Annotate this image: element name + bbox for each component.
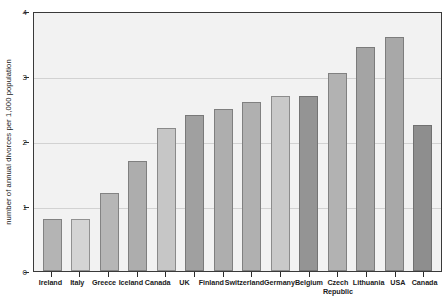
x-tick-slot	[94, 272, 123, 277]
bar-slot	[124, 13, 153, 271]
x-tick-mark	[251, 272, 252, 277]
x-axis-tick-label: Finland	[198, 279, 225, 303]
x-tick-slot	[37, 272, 66, 277]
x-tick-mark	[366, 272, 367, 277]
y-tick-mark	[24, 207, 29, 208]
x-axis-tick-label: Lithuania	[353, 279, 385, 303]
y-tick-mark	[24, 77, 29, 78]
x-tick-slot	[180, 272, 209, 277]
x-tick-slot	[323, 272, 352, 277]
x-tick-mark	[223, 272, 224, 277]
plot-area	[33, 12, 442, 272]
bar[interactable]	[185, 115, 204, 271]
x-tick-mark	[337, 272, 338, 277]
x-axis-ticks	[33, 272, 442, 277]
bar-slot	[238, 13, 267, 271]
x-tick-mark	[280, 272, 281, 277]
bar[interactable]	[299, 96, 318, 272]
bar[interactable]	[100, 193, 119, 271]
bar-slot	[295, 13, 324, 271]
x-tick-slot	[123, 272, 152, 277]
bar-slot	[409, 13, 438, 271]
bar-slot	[38, 13, 67, 271]
x-tick-slot	[409, 272, 438, 277]
x-tick-slot	[352, 272, 381, 277]
bar-slot	[352, 13, 381, 271]
bar[interactable]	[128, 161, 147, 272]
x-axis-tick-label: Greece	[91, 279, 118, 303]
x-tick-slot	[209, 272, 238, 277]
bar[interactable]	[385, 37, 404, 271]
x-tick-mark	[51, 272, 52, 277]
x-tick-mark	[165, 272, 166, 277]
x-tick-slot	[237, 272, 266, 277]
x-axis-tick-label: UK	[171, 279, 198, 303]
x-tick-slot	[152, 272, 181, 277]
x-axis-tick-label: Belgium	[295, 279, 323, 303]
bar[interactable]	[43, 219, 62, 271]
bar-slot	[380, 13, 409, 271]
x-axis-tick-label: Iceland	[117, 279, 144, 303]
x-tick-mark	[108, 272, 109, 277]
x-tick-mark	[194, 272, 195, 277]
x-axis-tick-label: Ireland	[37, 279, 64, 303]
x-tick-mark	[79, 272, 80, 277]
x-tick-slot	[381, 272, 410, 277]
bar[interactable]	[356, 47, 375, 271]
x-axis-tick-label: Germany	[264, 279, 295, 303]
bar-series	[34, 13, 441, 271]
x-axis-tick-label: Switzerland	[225, 279, 264, 303]
x-tick-mark	[395, 272, 396, 277]
bar-slot	[323, 13, 352, 271]
bar[interactable]	[271, 96, 290, 272]
bar[interactable]	[328, 73, 347, 271]
bar[interactable]	[157, 128, 176, 271]
bar-slot	[266, 13, 295, 271]
x-axis-tick-label: Czech Republic	[323, 279, 353, 303]
x-axis-labels: IrelandItalyGreeceIcelandCanadaUKFinland…	[33, 279, 442, 303]
y-tick-mark	[24, 12, 29, 13]
y-tick-mark	[24, 142, 29, 143]
x-axis-tick-label: Canada	[411, 279, 438, 303]
bar-slot	[209, 13, 238, 271]
x-axis-tick-label: Italy	[64, 279, 91, 303]
x-tick-slot	[295, 272, 324, 277]
bar-slot	[181, 13, 210, 271]
y-tick-mark	[24, 272, 29, 273]
bar[interactable]	[242, 102, 261, 271]
x-axis-tick-label: Canada	[144, 279, 171, 303]
y-axis-label-container: number of annual divorces per 1,000 popu…	[0, 12, 16, 272]
x-tick-mark	[423, 272, 424, 277]
y-axis-ticks: 01234	[16, 0, 29, 290]
bar[interactable]	[214, 109, 233, 272]
bar-slot	[95, 13, 124, 271]
bar[interactable]	[413, 125, 432, 271]
bar-slot	[67, 13, 96, 271]
bar[interactable]	[71, 219, 90, 271]
divorce-rate-bar-chart: number of annual divorces per 1,000 popu…	[0, 0, 447, 303]
bar-slot	[152, 13, 181, 271]
x-tick-slot	[66, 272, 95, 277]
y-axis-label: number of annual divorces per 1,000 popu…	[4, 59, 13, 224]
x-axis-tick-label: USA	[384, 279, 411, 303]
x-tick-mark	[309, 272, 310, 277]
x-tick-slot	[266, 272, 295, 277]
x-tick-mark	[137, 272, 138, 277]
